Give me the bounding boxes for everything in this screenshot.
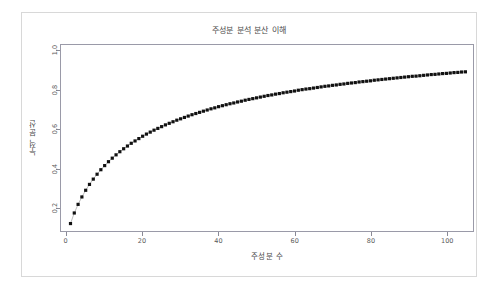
data-point [452, 71, 455, 74]
y-tick-label: 1.0 [54, 50, 55, 51]
data-point [335, 83, 338, 86]
data-point [331, 84, 334, 87]
data-point [240, 100, 243, 103]
data-point [376, 78, 379, 81]
data-point [422, 74, 425, 77]
data-point [133, 139, 136, 142]
data-point [418, 74, 421, 77]
data-point [99, 168, 102, 171]
series-markers [69, 70, 467, 225]
data-point [228, 102, 231, 105]
data-point [209, 107, 212, 110]
data-point [259, 95, 262, 98]
data-point [206, 108, 209, 111]
data-point [137, 137, 140, 140]
data-point [263, 95, 266, 98]
data-point [327, 84, 330, 87]
x-tick-label: 60 [291, 237, 299, 245]
data-point [395, 76, 398, 79]
x-tick-mark [295, 232, 296, 236]
data-point [190, 113, 193, 116]
data-point [445, 72, 448, 75]
data-point [118, 150, 121, 153]
data-point [92, 178, 95, 181]
data-point [187, 114, 190, 117]
data-point [411, 75, 414, 78]
data-point [251, 97, 254, 100]
x-axis-title: 주성분 수 [60, 250, 474, 261]
data-point [76, 203, 79, 206]
data-point [255, 96, 258, 99]
data-point [183, 116, 186, 119]
data-point [221, 104, 224, 107]
data-point [441, 72, 444, 75]
data-point [179, 117, 182, 120]
y-axis-title: 누적 분산 [27, 44, 39, 232]
data-point [73, 211, 76, 214]
data-point [426, 73, 429, 76]
x-tick-mark [66, 232, 67, 236]
data-point [130, 142, 133, 145]
y-tick-label: 0.6 [54, 129, 55, 130]
data-point [293, 89, 296, 92]
y-tick-label: 0.4 [54, 169, 55, 170]
data-point [156, 127, 159, 130]
x-tick-label: 20 [138, 237, 146, 245]
data-point [194, 112, 197, 115]
data-point [323, 85, 326, 88]
data-point [160, 125, 163, 128]
data-point [350, 81, 353, 84]
data-point [103, 164, 106, 167]
data-point [175, 119, 178, 122]
data-point [464, 70, 467, 73]
data-point [357, 80, 360, 83]
data-point [171, 120, 174, 123]
data-point [312, 86, 315, 89]
data-point [247, 98, 250, 101]
y-tick-label-text: 0.6 [52, 124, 59, 134]
data-point [141, 135, 144, 138]
data-point [388, 77, 391, 80]
data-point [414, 75, 417, 78]
data-point [80, 195, 83, 198]
data-point [384, 77, 387, 80]
y-axis: 0.20.40.60.81.0 [52, 44, 60, 232]
data-point [274, 93, 277, 96]
data-point [111, 157, 114, 160]
data-point [430, 73, 433, 76]
data-point [339, 83, 342, 86]
x-tick-mark [142, 232, 143, 236]
data-point [236, 100, 239, 103]
data-point [152, 129, 155, 132]
data-point [114, 153, 117, 156]
y-tick-label-text: 0.8 [52, 84, 59, 94]
data-point [198, 111, 201, 114]
data-point [320, 85, 323, 88]
plot-series-svg [61, 45, 473, 231]
data-point [460, 70, 463, 73]
x-tick-mark [447, 232, 448, 236]
data-point [369, 79, 372, 82]
data-point [278, 92, 281, 95]
data-point [433, 73, 436, 76]
data-point [354, 81, 357, 84]
data-point [308, 87, 311, 90]
data-point [126, 144, 129, 147]
x-tick-mark [218, 232, 219, 236]
y-tick-label-text: 0.4 [52, 164, 59, 174]
data-point [304, 87, 307, 90]
x-tick-label: 80 [367, 237, 375, 245]
plot-panel [60, 44, 474, 232]
data-point [285, 91, 288, 94]
data-point [301, 88, 304, 91]
data-point [365, 80, 368, 83]
data-point [407, 75, 410, 78]
data-point [342, 82, 345, 85]
data-point [449, 71, 452, 74]
data-point [69, 222, 72, 225]
data-point [244, 99, 247, 102]
data-point [437, 72, 440, 75]
chart-figure: 주성분 분석 분산 이해 0.20.40.60.81.0 02040608010… [0, 0, 502, 289]
data-point [107, 160, 110, 163]
data-point [346, 82, 349, 85]
